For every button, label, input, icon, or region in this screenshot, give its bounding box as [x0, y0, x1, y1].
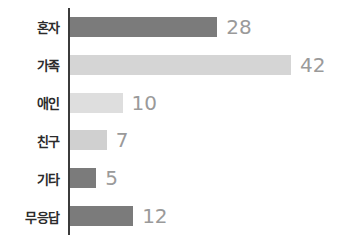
- bar-rows: 혼자28가족42애인10친구7기타5무응답12: [0, 8, 349, 235]
- bar-row: 혼자28: [0, 8, 349, 46]
- bar: [70, 168, 96, 188]
- bar-value-label: 12: [142, 206, 167, 226]
- bar-value-label: 28: [226, 17, 251, 37]
- bar: [70, 17, 217, 37]
- bar-row: 애인10: [0, 84, 349, 122]
- category-label: 혼자: [0, 8, 60, 46]
- bar: [70, 93, 123, 113]
- bar-row: 기타5: [0, 159, 349, 197]
- bar-row: 무응답12: [0, 197, 349, 235]
- bar-and-value: 5: [70, 159, 118, 197]
- bar-and-value: 12: [70, 197, 168, 235]
- bar-and-value: 42: [70, 46, 325, 84]
- bar: [70, 55, 291, 75]
- bar: [70, 206, 133, 226]
- bar-value-label: 5: [105, 168, 118, 188]
- bar-value-label: 42: [300, 55, 325, 75]
- category-label: 친구: [0, 122, 60, 160]
- bar-row: 친구7: [0, 122, 349, 160]
- bar-value-label: 7: [116, 130, 129, 150]
- bar: [70, 130, 107, 150]
- bar-and-value: 10: [70, 84, 157, 122]
- category-label: 무응답: [0, 197, 60, 235]
- bar-chart: 혼자28가족42애인10친구7기타5무응답12: [0, 0, 349, 251]
- category-label: 가족: [0, 46, 60, 84]
- bar-row: 가족42: [0, 46, 349, 84]
- bar-and-value: 7: [70, 122, 129, 160]
- category-label: 기타: [0, 159, 60, 197]
- bar-value-label: 10: [132, 93, 157, 113]
- category-label: 애인: [0, 84, 60, 122]
- plot-area: 혼자28가족42애인10친구7기타5무응답12: [0, 0, 349, 251]
- bar-and-value: 28: [70, 8, 252, 46]
